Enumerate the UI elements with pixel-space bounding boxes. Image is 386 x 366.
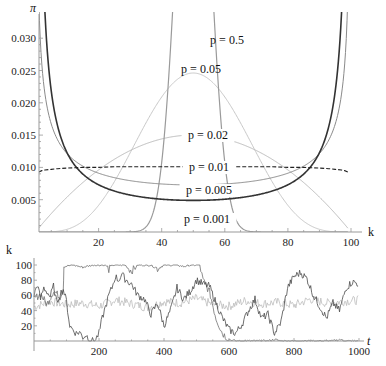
y-tick-label: 0.025 xyxy=(11,65,36,77)
x-tick-label: 20 xyxy=(93,236,105,248)
y-tick-label: 0.020 xyxy=(11,97,36,109)
y-axis-label: k xyxy=(6,243,12,257)
curve-p-0-5 xyxy=(39,0,348,232)
trajectory-plot: 200400600800100020406080100kt xyxy=(6,243,371,357)
y-tick-label: 0.030 xyxy=(11,32,36,44)
series-label: p = 0.001 xyxy=(184,212,230,226)
y-tick-label: 20 xyxy=(21,320,33,332)
curve-p-0-05 xyxy=(39,73,348,232)
trajectory-1 xyxy=(34,270,358,341)
series-label: p = 0.05 xyxy=(181,62,221,76)
x-tick-label: 80 xyxy=(282,236,294,248)
x-tick-label: 200 xyxy=(91,345,108,357)
curve-p-0-005 xyxy=(39,0,348,185)
trajectory-0 xyxy=(34,265,358,341)
x-tick-label: 60 xyxy=(219,236,231,248)
x-tick-label: 600 xyxy=(221,345,238,357)
y-tick-label: 0.010 xyxy=(11,161,36,173)
y-tick-label: 0.005 xyxy=(11,194,36,206)
x-axis-label: k xyxy=(368,225,374,239)
series-label: p = 0.02 xyxy=(188,128,228,142)
stationary-distribution-plot: 204060801000.0050.0100.0150.0200.0250.03… xyxy=(11,0,374,248)
x-axis-label: t xyxy=(367,334,371,348)
series-label: p = 0.5 xyxy=(210,33,244,47)
y-tick-label: 40 xyxy=(21,305,33,317)
figure: 204060801000.0050.0100.0150.0200.0250.03… xyxy=(0,0,386,366)
y-tick-label: 80 xyxy=(21,274,33,286)
trajectory-2 xyxy=(34,294,358,311)
y-tick-label: 100 xyxy=(16,259,33,271)
y-tick-label: 60 xyxy=(21,289,33,301)
x-tick-label: 800 xyxy=(286,345,303,357)
y-axis-label: π xyxy=(30,1,37,15)
series-label: p = 0.01 xyxy=(189,160,229,174)
x-tick-label: 400 xyxy=(156,345,173,357)
x-tick-label: 100 xyxy=(343,236,360,248)
y-tick-label: 0.015 xyxy=(11,129,36,141)
x-tick-label: 40 xyxy=(156,236,168,248)
series-label: p = 0.005 xyxy=(186,183,232,197)
